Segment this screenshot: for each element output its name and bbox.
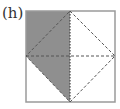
square-diagram	[0, 0, 120, 109]
